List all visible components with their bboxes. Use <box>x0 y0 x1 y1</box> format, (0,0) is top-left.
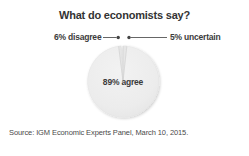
pie-chart-figure: What do economists say? <box>0 0 249 156</box>
leader-dot-uncertain <box>127 36 130 39</box>
pie-label-disagree: 6% disagree <box>54 32 101 43</box>
source-note: Source: IGM Economic Experts Panel, Marc… <box>9 128 188 137</box>
pie-label-agree: 89% agree <box>87 77 159 87</box>
leader-dot-disagree <box>117 36 120 39</box>
pie-label-uncertain: 5% uncertain <box>170 32 221 43</box>
